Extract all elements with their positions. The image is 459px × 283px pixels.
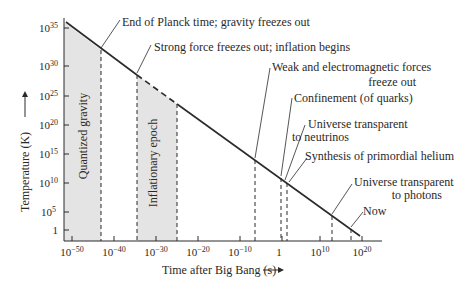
inflationary-epoch-label: Inflationary epoch [146,119,160,207]
label-neutrinos-line1: Universe transparent [308,117,408,131]
label-helium: Synthesis of primordial helium [305,149,455,163]
svg-text:1: 1 [53,224,59,236]
svg-text:1010: 1010 [311,245,330,258]
svg-text:105: 105 [41,205,56,218]
label-confinement: Confinement (of quarks) [294,91,413,105]
label-strong-force: Strong force freezes out; inflation begi… [154,40,351,54]
svg-text:10−10: 10−10 [228,245,252,258]
svg-text:10−30: 10−30 [144,245,168,258]
y-tick-labels: 1035 1030 1025 1020 1015 1010 105 1 [39,21,58,236]
y-axis-arrow-icon [22,91,28,117]
svg-text:1010: 1010 [39,176,58,189]
svg-text:1025: 1025 [39,89,58,102]
x-axis-label: Time after Big Bang (s) [162,263,276,277]
label-weak-em-line1: Weak and electromagnetic forces [272,60,432,74]
label-now: Now [363,204,387,218]
svg-text:1030: 1030 [39,59,58,72]
svg-text:10−50: 10−50 [60,245,84,258]
label-planck-time: End of Planck time; gravity freezes out [122,15,311,29]
label-photons-line2: to photons [392,188,443,202]
svg-text:10−20: 10−20 [186,245,210,258]
svg-text:1015: 1015 [39,147,58,160]
svg-text:1020: 1020 [39,118,58,131]
label-weak-em-line2: freeze out [368,75,416,89]
svg-text:1020: 1020 [353,245,372,258]
quantized-gravity-label: Quantized gravity [76,93,90,179]
svg-text:10−40: 10−40 [102,245,126,258]
x-ticks [72,236,362,241]
svg-text:1035: 1035 [39,21,58,34]
x-tick-labels: 10−50 10−40 10−30 10−20 10−10 1 1010 102… [60,245,371,258]
label-photons-line1: Universe transparent [354,175,454,189]
temperature-history-chart: Quantized gravity Inflationary epoch 103… [0,0,459,283]
y-axis-label: Temperature (K) [18,132,32,212]
label-neutrinos-line2: to neutrinos [292,130,349,144]
svg-text:1: 1 [276,246,282,258]
